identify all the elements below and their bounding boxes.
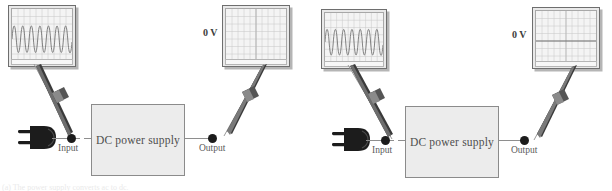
input-port-label: Input [58, 143, 78, 153]
figure-canvas: 0 V DC [0, 0, 612, 191]
input-sine-trace [12, 9, 72, 60]
input-oscilloscope[interactable] [8, 5, 76, 67]
output-terminal-node[interactable] [520, 136, 529, 145]
output-flat-trace [536, 11, 596, 62]
input-terminal-node[interactable] [381, 136, 390, 145]
figure-caption: (a) The power supply converts ac to dc. [2, 183, 128, 191]
dc-power-supply-label: DC power supply [96, 134, 180, 146]
input-oscilloscope[interactable] [321, 9, 387, 69]
output-voltage-label: 0 V [512, 29, 527, 40]
oscilloscope-screen [225, 8, 287, 60]
diagram-left: 0 V DC [0, 0, 306, 191]
oscilloscope-screen [324, 12, 384, 62]
output-oscilloscope[interactable] [532, 7, 600, 69]
output-terminal-node[interactable] [208, 134, 217, 143]
output-probe[interactable] [210, 62, 272, 140]
oscilloscope-grid [226, 9, 286, 60]
oscilloscope-screen [535, 10, 597, 62]
dc-power-supply-label: DC power supply [410, 136, 494, 148]
input-sine-trace [325, 13, 383, 62]
dc-power-supply-box[interactable]: DC power supply [405, 106, 499, 178]
output-port-label: Output [511, 145, 537, 155]
output-oscilloscope[interactable] [222, 5, 290, 67]
diagram-right: 0 V DC [306, 0, 612, 191]
output-voltage-label: 0 V [203, 27, 218, 38]
dc-power-supply-box[interactable]: DC power supply [91, 104, 185, 176]
output-probe[interactable] [520, 64, 582, 144]
output-port-label: Output [199, 143, 225, 153]
oscilloscope-screen [11, 8, 73, 60]
input-terminal-node[interactable] [67, 134, 76, 143]
input-port-label: Input [372, 145, 392, 155]
